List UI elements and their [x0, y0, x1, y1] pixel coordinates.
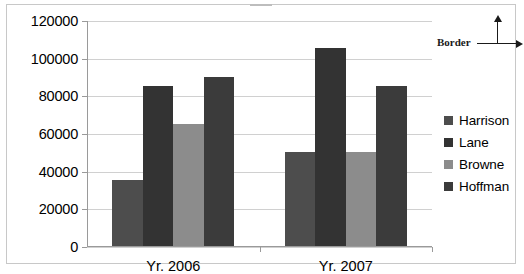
- legend-item-harrison[interactable]: Harrison: [444, 109, 518, 131]
- legend-swatch-icon: [444, 160, 453, 169]
- border-annotation-right-arrowhead: [516, 40, 523, 48]
- bar-harrison-2006: [112, 180, 143, 246]
- y-axis-tick: [82, 21, 87, 22]
- plot-inner: [87, 21, 432, 247]
- bar-harrison-2007: [285, 152, 316, 246]
- x-axis-category-label: Yr. 2006: [146, 258, 200, 274]
- y-axis-tick-label: 0: [70, 239, 78, 255]
- chart-frame: 020000400006000080000100000120000Yr. 200…: [6, 4, 516, 264]
- legend-item-label: Lane: [459, 135, 489, 150]
- y-axis-tick-label: 20000: [39, 201, 78, 217]
- legend-item-lane[interactable]: Lane: [444, 131, 518, 153]
- legend-item-hoffman[interactable]: Hoffman: [444, 175, 518, 197]
- y-axis-line: [87, 21, 88, 247]
- bar-browne-2006: [173, 124, 204, 246]
- legend-swatch-icon: [444, 182, 453, 191]
- border-annotation-vertical-arrow-line: [497, 21, 498, 44]
- y-axis-tick-label: 40000: [39, 164, 78, 180]
- border-annotation-up-arrowhead: [494, 15, 502, 22]
- legend-item-browne[interactable]: Browne: [444, 153, 518, 175]
- bar-lane-2006: [143, 86, 174, 246]
- border-annotation: Border: [437, 15, 524, 53]
- legend-swatch-icon: [444, 116, 453, 125]
- plot-area: 020000400006000080000100000120000Yr. 200…: [87, 21, 432, 247]
- bar-hoffman-2007: [376, 86, 407, 246]
- bar-lane-2007: [315, 48, 346, 246]
- bar-hoffman-2006: [204, 77, 235, 247]
- y-axis-tick-label: 80000: [39, 88, 78, 104]
- legend-swatch-icon: [444, 138, 453, 147]
- bar-browne-2007: [346, 152, 377, 246]
- y-axis-tick: [82, 134, 87, 135]
- y-axis-tick: [82, 247, 87, 248]
- y-axis-tick-label: 100000: [31, 51, 78, 67]
- chart-legend: HarrisonLaneBrowneHoffman: [444, 109, 518, 197]
- y-axis-tick: [82, 172, 87, 173]
- chart-top-handle[interactable]: [250, 4, 272, 6]
- x-axis-category-label: Yr. 2007: [319, 258, 373, 274]
- y-axis-tick: [82, 96, 87, 97]
- gridline: [87, 21, 432, 22]
- y-axis-tick: [82, 59, 87, 60]
- y-axis-tick-label: 120000: [31, 13, 78, 29]
- legend-item-label: Harrison: [459, 113, 509, 128]
- x-axis-tick: [260, 247, 261, 252]
- gridline: [87, 59, 432, 60]
- legend-item-label: Hoffman: [459, 179, 509, 194]
- border-annotation-label: Border: [437, 36, 471, 48]
- y-axis-tick: [82, 209, 87, 210]
- x-axis-tick: [432, 247, 433, 252]
- legend-item-label: Browne: [459, 157, 504, 172]
- y-axis-tick-label: 60000: [39, 126, 78, 142]
